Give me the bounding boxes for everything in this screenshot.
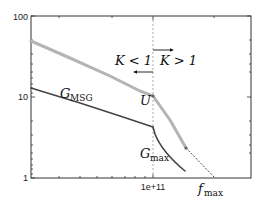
u-marker-2: [184, 146, 187, 149]
g-max-curve: [153, 127, 185, 171]
k-greater-arrowhead-icon: [170, 48, 174, 51]
g-max-label-main: G: [140, 146, 150, 161]
x-tick-label-1e11: 1e+11: [141, 182, 166, 192]
k-greater-label: K > 1: [159, 53, 197, 68]
g-max-label-sub: max: [150, 153, 169, 163]
u-extrapolation-dotted-line: [186, 148, 215, 178]
k-less-label: K < 1: [114, 53, 152, 68]
f-max-label-sub: max: [204, 188, 223, 198]
k-less-arrowhead-icon: [133, 70, 137, 73]
g-msg-label-sub: MSG: [70, 93, 93, 103]
g-max-label: G max: [140, 146, 169, 163]
u-label: U: [140, 93, 152, 108]
gain-vs-frequency-chart: 100 10 1 1e+11 K < 1 K > 1 U G MSG G max…: [0, 0, 266, 204]
g-msg-label: G MSG: [60, 86, 93, 103]
u-marker-1: [151, 94, 154, 97]
y-tick-label-100: 100: [13, 12, 28, 22]
g-msg-label-main: G: [60, 86, 70, 101]
y-tick-label-1: 1: [23, 173, 28, 183]
y-tick-label-10: 10: [18, 92, 28, 102]
f-max-label: f max: [197, 181, 223, 198]
